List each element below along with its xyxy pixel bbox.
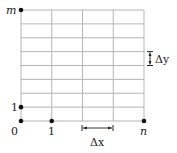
point-x-end (142, 119, 147, 124)
point-y-end (19, 8, 24, 13)
label-dy: Δy (155, 53, 170, 66)
label-y-one: 1 (11, 101, 18, 114)
dy-arrowhead-up-icon (149, 53, 152, 56)
label-origin: 0 (11, 125, 18, 138)
grid-diagram: m 1 0 1 n Δx Δy (0, 0, 177, 153)
dx-arrowhead-left-icon (83, 127, 87, 130)
point-origin (19, 119, 24, 124)
point-y-one (19, 105, 24, 110)
interval-markers (82, 52, 153, 131)
label-dx: Δx (90, 136, 105, 149)
grid-lines (21, 10, 144, 121)
label-y-end: m (6, 4, 16, 17)
dy-arrowhead-down-icon (149, 61, 152, 65)
dx-arrowhead-right-icon (108, 127, 112, 130)
point-x-one (49, 119, 54, 124)
label-x-end: n (140, 125, 147, 138)
label-x-one: 1 (48, 125, 55, 138)
